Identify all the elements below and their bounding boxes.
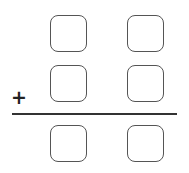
digit-box-row2-tens [50,65,87,102]
plus-sign: + [11,88,27,107]
sum-line [12,113,177,115]
digit-box-row1-tens [50,15,87,52]
digit-box-result-tens [50,125,87,162]
digit-box-row2-ones [127,65,164,102]
digit-box-result-ones [127,125,164,162]
digit-box-row1-ones [127,15,164,52]
